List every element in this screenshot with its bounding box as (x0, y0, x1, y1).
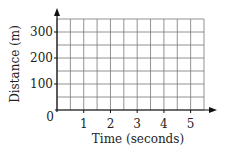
distance-time-chart: 12345100200300 Time (seconds) Distance (… (0, 0, 227, 153)
y-axis-arrow-icon (54, 8, 60, 16)
y-axis-label: Distance (m) (8, 25, 22, 103)
y-tick-label: 100 (30, 77, 53, 91)
x-axis-label: Time (seconds) (92, 132, 184, 146)
x-axis-arrow-icon (209, 107, 217, 113)
grid (57, 19, 204, 110)
x-tick-label: 2 (107, 117, 115, 131)
tick-labels: 12345100200300 (30, 25, 194, 131)
origin-label: 0 (46, 110, 54, 124)
y-tick-label: 200 (30, 51, 53, 65)
x-tick-label: 4 (160, 117, 168, 131)
y-tick-label: 300 (30, 25, 53, 39)
x-tick-label: 1 (80, 117, 88, 131)
x-tick-label: 5 (187, 117, 195, 131)
x-tick-label: 3 (133, 117, 141, 131)
